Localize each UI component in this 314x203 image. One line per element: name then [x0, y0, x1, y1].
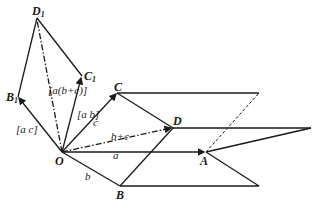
vectors: [19, 20, 204, 186]
label-b-plus-c: b+c: [111, 130, 129, 142]
vector-diagram: O A B C D D1 C1 B1 a b c b+c [a b] [a c]…: [0, 0, 314, 203]
label-a: a: [113, 149, 119, 161]
label-ac: [a c]: [16, 123, 38, 135]
label-C1: C1: [84, 69, 96, 84]
label-b: b: [85, 170, 91, 182]
label-a-b-plus-c: [a(b+c)]: [48, 84, 87, 97]
label-C: C: [114, 80, 123, 94]
prism-lines: [117, 93, 311, 186]
label-D: D: [172, 114, 182, 128]
point-labels: O A B C D D1 C1 B1: [5, 4, 208, 202]
label-D1: D1: [31, 4, 45, 19]
label-A: A: [199, 154, 208, 168]
label-B: B: [115, 188, 124, 202]
label-ab: [a b]: [77, 108, 99, 120]
label-B1: B1: [5, 90, 18, 105]
vector-b: [62, 152, 120, 186]
label-O: O: [55, 154, 64, 168]
